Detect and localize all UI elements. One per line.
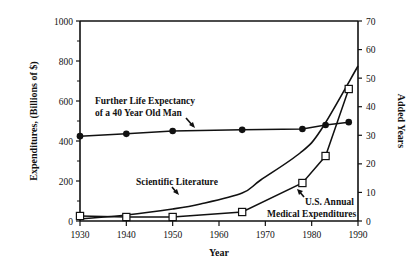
y-tick-label-left: 200: [59, 177, 74, 187]
data-point: [123, 131, 130, 138]
data-point: [345, 85, 352, 92]
annotation-medical-line1: U.S. Annual: [305, 197, 354, 207]
data-point: [169, 128, 176, 135]
y-tick-label-right: 70: [366, 17, 376, 27]
series-0: [77, 119, 352, 140]
data-point: [123, 213, 130, 220]
y-tick-label-right: 50: [366, 74, 376, 84]
x-tick-label: 1980: [302, 230, 321, 240]
x-tick-label: 1990: [349, 230, 368, 240]
y-tick-label-left: 400: [59, 137, 74, 147]
y-axis-title-right: Added Years: [396, 94, 407, 148]
x-axis-title: Year: [209, 247, 230, 258]
y-tick-label-right: 20: [366, 159, 376, 169]
y-tick-label-right: 60: [366, 45, 376, 55]
annotation-life-expectancy-line1: Further Life Expectancy: [95, 96, 195, 106]
y-tick-label-left: 0: [68, 217, 73, 227]
y-tick-label-right: 40: [366, 102, 376, 112]
data-point: [299, 179, 306, 186]
y-tick-label-right: 0: [366, 217, 371, 227]
chart: 0200400600800100001020304050607019301940…: [0, 0, 418, 273]
y-tick-label-left: 1000: [54, 17, 73, 27]
x-tick-label: 1970: [256, 230, 275, 240]
y-tick-label-left: 600: [59, 97, 74, 107]
data-point: [76, 212, 83, 219]
annotation-medical-line2: Medical Expenditures: [267, 209, 357, 219]
x-tick-label: 1940: [117, 230, 136, 240]
x-tick-label: 1950: [163, 230, 182, 240]
data-point: [77, 133, 84, 140]
data-point: [239, 127, 246, 134]
data-point: [322, 152, 329, 159]
data-point: [169, 213, 176, 220]
y-tick-label-right: 10: [366, 188, 376, 198]
data-point: [345, 119, 352, 126]
x-tick-label: 1960: [210, 230, 229, 240]
y-axis-title-left: Expenditures, (Billions of $): [28, 61, 40, 180]
annotation-scientific-literature: Scientific Literature: [136, 177, 218, 187]
y-tick-label-left: 800: [59, 57, 74, 67]
x-tick-label: 1930: [71, 230, 90, 240]
data-point: [239, 208, 246, 215]
data-point: [299, 126, 306, 133]
y-tick-label-right: 30: [366, 131, 376, 141]
annotation-life-expectancy-line2: of a 40 Year Old Man: [95, 108, 183, 118]
series-line: [80, 122, 349, 136]
